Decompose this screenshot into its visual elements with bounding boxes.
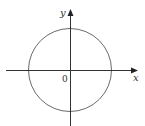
y-axis-label: y bbox=[59, 7, 66, 18]
y-axis-arrow-icon bbox=[68, 9, 74, 16]
x-axis-label: x bbox=[133, 72, 139, 83]
diagram-canvas: y x 0 bbox=[0, 0, 145, 126]
origin-label: 0 bbox=[62, 74, 68, 84]
